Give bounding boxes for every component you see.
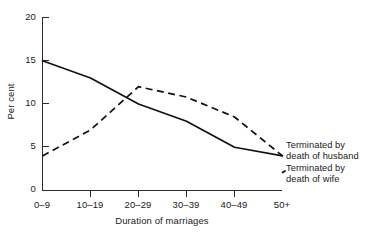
y-tick-label-0: 0 <box>10 183 36 194</box>
legend-wife-line2: death of wife <box>286 174 345 185</box>
legend-husband-line2: death of husband <box>286 151 359 162</box>
x-tick-label-0-9: 0–9 <box>17 199 67 210</box>
y-tick-label-15: 15 <box>10 54 36 65</box>
legend-wife-line1: Terminated by <box>286 163 345 173</box>
chart-figure: 20 15 10 5 0 0–9 10–19 20–29 30–39 40–49… <box>0 0 369 244</box>
x-tick-label-30-39: 30–39 <box>161 199 211 210</box>
x-tick-label-20-29: 20–29 <box>113 199 163 210</box>
legend-leader-wife <box>283 171 286 173</box>
y-axis-title: Per cent <box>5 72 16 132</box>
x-tick-label-50plus: 50+ <box>257 199 307 210</box>
x-tick-label-10-19: 10–19 <box>65 199 115 210</box>
y-tick-label-5: 5 <box>10 140 36 151</box>
series-line-wife <box>43 87 283 156</box>
legend-label-husband: Terminated by death of husband <box>286 140 359 161</box>
legend-label-wife: Terminated by death of wife <box>286 163 345 184</box>
y-tick-label-20: 20 <box>10 11 36 22</box>
x-axis-title: Duration of marriages <box>42 215 282 226</box>
x-tick-label-40-49: 40–49 <box>209 199 259 210</box>
series-line-husband <box>43 61 283 156</box>
legend-husband-line1: Terminated by <box>286 140 345 150</box>
